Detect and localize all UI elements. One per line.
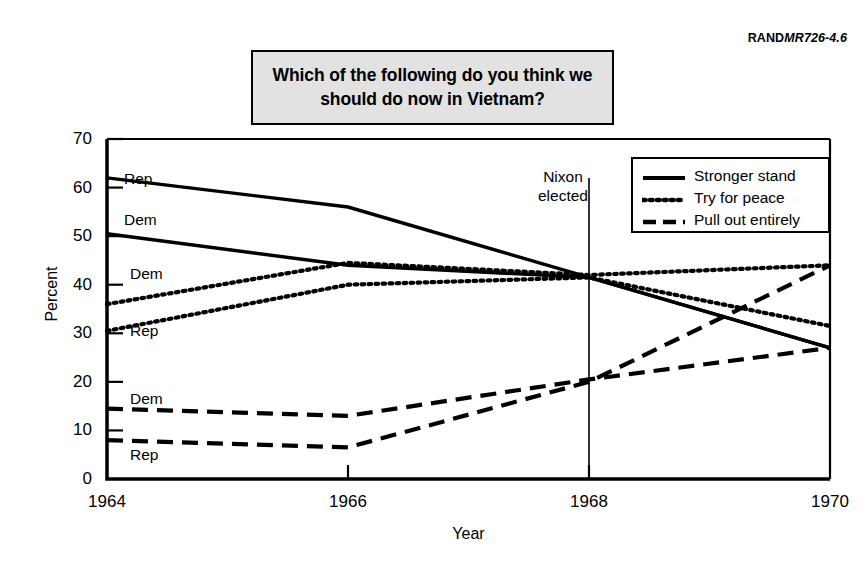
series-tag-try-for-peace-rep: Rep (130, 323, 158, 339)
y-tick-label: 60 (48, 179, 92, 196)
legend-item-stronger-stand: Stronger stand (642, 165, 828, 186)
x-axis-title: Year (107, 525, 830, 543)
x-tick-label: 1970 (785, 493, 865, 510)
legend-item-try-for-peace: Try for peace (642, 187, 828, 208)
series-line-pull-out-entirely-dem (107, 348, 830, 416)
y-tick-label: 50 (48, 227, 92, 244)
x-tick-label: 1966 (303, 493, 393, 510)
y-tick-label: 30 (48, 324, 92, 341)
nixon-annotation-line1: Nixon (508, 168, 618, 187)
series-tag-try-for-peace-dem: Dem (130, 266, 163, 282)
legend-label: Stronger stand (694, 168, 796, 184)
plot-svg (0, 0, 865, 567)
y-tick-label: 10 (48, 421, 92, 438)
x-axis-ticks (348, 465, 589, 479)
legend-swatch-dotted (642, 192, 686, 204)
y-tick-label: 70 (48, 130, 92, 147)
legend-swatch-solid (642, 170, 686, 182)
series-line-try-for-peace-dem (107, 263, 830, 304)
figure-rand-chart: RANDMR726-4.6 Which of the following do … (0, 0, 865, 567)
y-tick-label: 20 (48, 373, 92, 390)
legend-swatch-dashed (642, 214, 686, 226)
nixon-annotation-line2: elected (508, 187, 618, 206)
x-tick-label: 1964 (62, 493, 152, 510)
series-tag-pull-out-rep: Rep (130, 447, 158, 463)
x-tick-label: 1968 (544, 493, 634, 510)
nixon-elected-annotation: Nixon elected (508, 168, 618, 206)
series-tag-stronger-stand-dem: Dem (124, 212, 157, 228)
series-tag-stronger-stand-rep: Rep (124, 171, 152, 187)
series-tag-pull-out-dem: Dem (130, 391, 163, 407)
series-line-stronger-stand-dem (107, 234, 830, 348)
y-tick-label: 0 (48, 470, 92, 487)
legend-label: Try for peace (694, 190, 785, 206)
legend-item-pull-out-entirely: Pull out entirely (642, 209, 828, 230)
legend-label: Pull out entirely (694, 212, 800, 228)
series-line-pull-out-entirely-rep (107, 265, 830, 447)
chart-legend: Stronger standTry for peacePull out enti… (631, 157, 830, 233)
y-tick-label: 40 (48, 276, 92, 293)
y-axis-ticks (107, 139, 123, 430)
plot-area: Percent Year 010203040506070 19641966196… (0, 0, 865, 567)
